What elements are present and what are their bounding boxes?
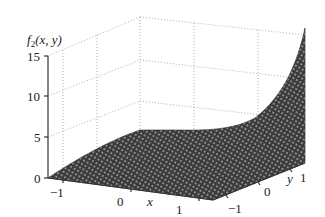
x-tick-0: 0 <box>117 194 124 209</box>
z-tick-5: 5 <box>34 130 41 145</box>
y-tick-1: 1 <box>300 170 307 185</box>
y-tick-0: 0 <box>264 184 271 199</box>
surface-plot: 15 10 5 0 f2(x, y) −1 0 1 x −1 0 1 y <box>0 0 325 217</box>
z-axis <box>44 56 48 178</box>
y-tick-m1: −1 <box>228 201 242 216</box>
z-axis-label: f2(x, y) <box>27 32 62 49</box>
x-axis-label: x <box>146 194 153 209</box>
z-tick-10: 10 <box>27 89 40 104</box>
z-tick-0: 0 <box>34 171 41 186</box>
x-tick-1: 1 <box>176 202 183 217</box>
z-tick-15: 15 <box>27 49 40 64</box>
y-axis-label: y <box>285 171 293 186</box>
x-tick-m1: −1 <box>50 185 64 200</box>
